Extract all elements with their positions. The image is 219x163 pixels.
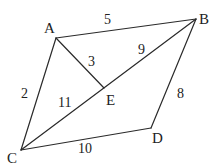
- edge-c-b: [21, 19, 196, 150]
- length-label-be: 9: [138, 42, 145, 57]
- edges: [21, 19, 196, 150]
- vertex-label-a: A: [44, 20, 55, 36]
- vertex-label-d: D: [152, 130, 163, 146]
- vertex-label-b: B: [199, 11, 209, 27]
- vertex-label-e: E: [106, 92, 115, 108]
- length-label-ae: 3: [88, 54, 95, 69]
- length-label-ce: 11: [58, 95, 71, 110]
- length-label-ab: 5: [104, 12, 111, 27]
- length-label-cd: 10: [78, 141, 92, 156]
- vertex-label-c: C: [7, 150, 17, 163]
- length-label-bd: 8: [177, 86, 184, 101]
- edge-a-e: [56, 38, 104, 88]
- length-label-ac: 2: [21, 86, 28, 101]
- geometry-diagram: A B C D E 5 2 3 9 11 8 10: [0, 0, 219, 163]
